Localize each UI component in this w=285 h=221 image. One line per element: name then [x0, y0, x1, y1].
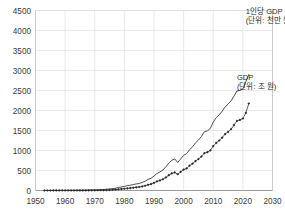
x-tick-label-1950: 1950 [26, 197, 45, 206]
y-tick-label-500: 500 [17, 167, 31, 176]
y-tick-label-4500: 4500 [13, 7, 32, 16]
gdp-label-line2: (단위: 조 원) [237, 81, 277, 91]
gdp-dual-line-chart: 050010001500200025003000350040004500 195… [0, 0, 285, 221]
y-tick-label-1000: 1000 [13, 147, 32, 156]
per-capita-gdp-label-line1: 1인당 GDP [246, 6, 283, 16]
y-tick-label-3000: 3000 [13, 67, 32, 76]
x-tick-label-2020: 2020 [234, 197, 253, 206]
x-axis-tick-labels: 195019601970198019902000201020202030 [26, 197, 282, 206]
y-tick-label-0: 0 [26, 187, 31, 196]
x-tick-label-1990: 1990 [145, 197, 164, 206]
per-capita-gdp-label-line2: (단위: 천만 원) [246, 15, 285, 25]
x-tick-label-1960: 1960 [56, 197, 75, 206]
x-tick-label-2000: 2000 [175, 197, 194, 206]
y-tick-label-1500: 1500 [13, 127, 32, 136]
gdp-label-line1: GDP [237, 73, 253, 82]
y-tick-label-3500: 3500 [13, 47, 32, 56]
x-tick-label-1970: 1970 [86, 197, 105, 206]
x-tick-label-1980: 1980 [115, 197, 134, 206]
y-tick-label-2500: 2500 [13, 87, 32, 96]
x-tick-label-2010: 2010 [204, 197, 223, 206]
y-tick-label-4000: 4000 [13, 27, 32, 36]
chart-container: 050010001500200025003000350040004500 195… [0, 0, 285, 221]
y-tick-label-2000: 2000 [13, 107, 32, 116]
x-tick-label-2030: 2030 [263, 197, 282, 206]
